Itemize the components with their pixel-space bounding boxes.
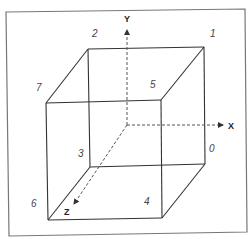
vertex-label-3: 3 [78,148,84,159]
y-axis-label: Y [124,14,130,24]
edge-back-top [88,47,204,49]
edge-back-left [88,49,90,167]
edge-top-right-depth [161,47,204,100]
vertex-label-1: 1 [210,28,216,39]
vertex-label-0: 0 [209,143,215,154]
x-axis-label: X [228,121,234,131]
vertex-label-4: 4 [144,196,150,207]
vertex-label-2: 2 [91,28,98,39]
edge-front-top [46,100,161,103]
vertex-label-5: 5 [150,79,156,90]
vertex-label-7: 7 [36,82,42,93]
vertex-label-6: 6 [31,198,37,209]
edge-back-bottom [90,164,205,167]
edge-front-bottom [48,218,162,220]
edge-top-left-depth [46,49,88,103]
edge-front-right [161,100,162,218]
z-axis-label: Z [64,207,70,217]
edge-front-left [46,103,48,220]
edge-bottom-right-depth [162,164,205,218]
z-axis-arrow [74,125,127,204]
cube-diagram: Y X Z 1 2 7 5 3 0 6 4 [0,0,251,239]
edge-back-right [204,47,205,164]
